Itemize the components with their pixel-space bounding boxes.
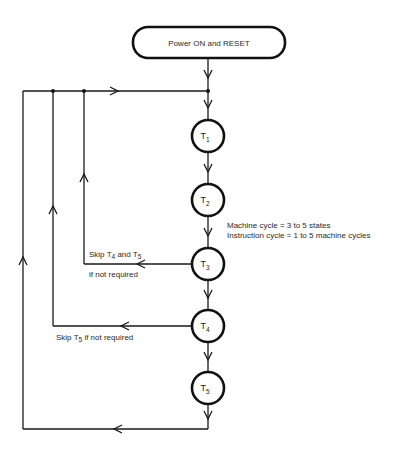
state-t1: T1 — [192, 120, 224, 152]
skip-t4-t5-label: Skip T4 and T5 — [89, 250, 142, 260]
loop-skip-t4-t5: Skip T4 and T5 if not required — [80, 91, 192, 279]
state-t3: T3 — [192, 248, 224, 280]
state-t4: T4 — [192, 310, 224, 342]
state-flow-diagram: Power ON and RESET Sk — [0, 0, 409, 452]
cycle-notes: Machine cycle = 3 to 5 states Instructio… — [227, 221, 370, 240]
start-node-label: Power ON and RESET — [168, 39, 249, 48]
top-return-line — [23, 87, 208, 95]
loop-skip-t5: Skip T5 if not required — [49, 91, 192, 343]
state-t2: T2 — [192, 184, 224, 216]
start-node-power-on-reset: Power ON and RESET — [133, 27, 285, 58]
skip-t5-label: Skip T5 if not required — [56, 333, 133, 343]
skip-t4-t5-condition: if not required — [89, 270, 138, 279]
state-t5: T5 — [192, 372, 224, 404]
loop-from-t5 — [19, 91, 208, 433]
instruction-cycle-note: Instruction cycle = 1 to 5 machine cycle… — [227, 231, 370, 240]
machine-cycle-note: Machine cycle = 3 to 5 states — [227, 221, 330, 230]
